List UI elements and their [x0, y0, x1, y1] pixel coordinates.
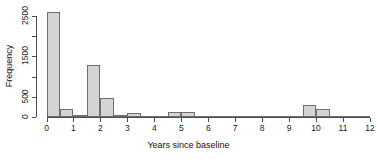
y-axis-title: Frequency — [4, 31, 14, 101]
x-tick-label: 11 — [328, 124, 358, 133]
x-tick-label: 1 — [58, 124, 88, 133]
histogram-bar — [303, 105, 316, 117]
histogram-bar — [100, 98, 113, 117]
x-axis-title: Years since baseline — [0, 140, 377, 150]
x-tick — [316, 118, 317, 122]
y-tick-label: 2500 — [21, 2, 30, 30]
x-tick — [154, 118, 155, 122]
y-tick — [32, 56, 36, 57]
y-tick-label: 1500 — [21, 42, 30, 70]
x-tick-label: 6 — [193, 124, 223, 133]
x-tick-label: 5 — [166, 124, 196, 133]
x-tick-label: 4 — [139, 124, 169, 133]
x-tick — [370, 118, 371, 122]
y-axis-line — [36, 16, 37, 117]
y-tick — [32, 117, 36, 118]
y-tick — [32, 36, 36, 37]
y-tick — [32, 16, 36, 17]
histogram-bar — [316, 109, 329, 117]
x-tick — [127, 118, 128, 122]
x-tick-label: 3 — [112, 124, 142, 133]
x-tick — [100, 118, 101, 122]
x-tick-label: 0 — [32, 124, 62, 133]
y-tick-label: 500 — [21, 82, 30, 110]
x-tick — [262, 118, 263, 122]
histogram-bar — [47, 12, 60, 117]
y-tick — [32, 97, 36, 98]
x-tick — [235, 118, 236, 122]
x-tick-label: 2 — [85, 124, 115, 133]
x-tick-label: 10 — [301, 124, 331, 133]
x-tick-label: 9 — [274, 124, 304, 133]
x-tick — [343, 118, 344, 122]
histogram-bar — [60, 109, 73, 117]
plot-area: 0123456789101112 050015002500 Years sinc… — [0, 0, 377, 159]
y-tick — [32, 77, 36, 78]
x-tick-label: 12 — [355, 124, 377, 133]
x-tick — [181, 118, 182, 122]
x-tick — [208, 118, 209, 122]
histogram-bar — [87, 65, 100, 117]
x-tick — [47, 118, 48, 122]
x-tick-label: 7 — [220, 124, 250, 133]
x-tick — [289, 118, 290, 122]
x-tick — [73, 118, 74, 122]
histogram-figure: 0123456789101112 050015002500 Years sinc… — [0, 0, 377, 159]
x-tick-label: 8 — [247, 124, 277, 133]
